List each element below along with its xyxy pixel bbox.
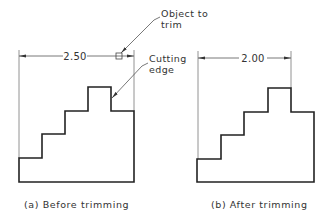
staircase-outline-a bbox=[19, 87, 134, 182]
annotation-cutting-edge-line2: edge bbox=[149, 64, 174, 75]
annotation-object-to-trim-line1: Object to bbox=[161, 8, 208, 19]
trim-diagram: 2.50 Object to trim Cutting edge (a) Bef… bbox=[0, 0, 330, 222]
annotation-object-to-trim-line2: trim bbox=[161, 19, 182, 30]
caption-a: (a) Before trimming bbox=[24, 199, 129, 210]
figure-b-after-trimming: 2.00 (b) After trimming bbox=[197, 51, 314, 210]
staircase-outline-b bbox=[197, 88, 314, 182]
leader-object-to-trim bbox=[121, 17, 160, 53]
annotation-cutting-edge-line1: Cutting bbox=[149, 53, 187, 64]
caption-b: (b) After trimming bbox=[211, 199, 308, 210]
dimension-label: 2.50 bbox=[63, 51, 86, 62]
dimension-label: 2.00 bbox=[241, 53, 264, 64]
leader-cutting-edge bbox=[112, 63, 148, 98]
figure-a-before-trimming: 2.50 Object to trim Cutting edge (a) Bef… bbox=[19, 8, 208, 210]
